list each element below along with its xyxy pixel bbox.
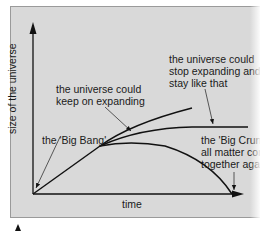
y-axis xyxy=(30,22,37,194)
page-edge-fade xyxy=(250,0,260,233)
x-axis-label: time xyxy=(122,198,142,210)
pointer-stop-expanding xyxy=(205,89,213,124)
triangle-marker-icon xyxy=(15,224,21,231)
diagram-stage: size of the universe time the 'Big Bang'… xyxy=(0,0,260,233)
x-axis xyxy=(33,191,244,198)
annotation-keep-expanding: the universe could keep on expanding xyxy=(56,83,145,107)
y-axis-label: size of the universe xyxy=(6,44,18,134)
y-axis-arrow-icon xyxy=(30,22,37,34)
curve-initial-rise xyxy=(33,146,100,194)
annotation-big-bang: the 'Big Bang' xyxy=(42,134,106,146)
annotation-stop-expanding: the universe could stop expanding and st… xyxy=(169,53,260,89)
pointer-keep-expanding xyxy=(105,107,131,131)
x-axis-arrow-icon xyxy=(232,191,244,198)
